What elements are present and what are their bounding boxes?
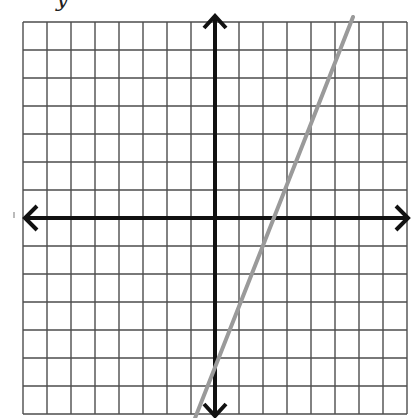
axes bbox=[25, 16, 408, 416]
coordinate-grid bbox=[0, 0, 415, 418]
coordinate-plane-figure: y bbox=[0, 0, 415, 418]
cut-off-equation-label: y bbox=[0, 0, 68, 6]
stray-tick-mark bbox=[13, 212, 15, 218]
